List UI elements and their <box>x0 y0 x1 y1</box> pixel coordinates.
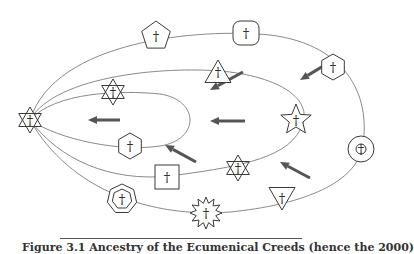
figure-caption: Figure 3.1 Ancestry of the Ecumenical Cr… <box>22 241 382 254</box>
cross-glyph: † <box>279 191 286 206</box>
cross-glyph: † <box>235 161 242 176</box>
cross-glyph: † <box>27 113 34 128</box>
circle-cross-icon: † <box>348 136 374 162</box>
outer-orbit <box>30 33 364 212</box>
twelve-point-star-cross-icon: † <box>190 197 222 229</box>
arrow-lower-right-icon <box>280 162 310 178</box>
star-of-david-lower-icon: † <box>227 155 250 181</box>
pentagon-cross-icon: † <box>142 21 171 48</box>
cross-glyph: † <box>110 85 117 100</box>
cross-glyph: † <box>164 170 171 185</box>
triangle-down-cross-icon: † <box>269 188 295 211</box>
five-point-star-cross-icon: † <box>281 104 311 133</box>
star-of-david-upper-icon: † <box>102 79 125 105</box>
square-cross-icon: † <box>155 165 179 189</box>
second-orbit <box>30 70 304 177</box>
cross-glyph: † <box>243 26 250 41</box>
arrow-left-mid-icon <box>210 117 245 125</box>
hexagon-cross-right-icon: † <box>322 54 345 80</box>
arrow-left-inner-icon <box>88 116 120 124</box>
cross-glyph: † <box>215 65 222 80</box>
cross-glyph: † <box>153 29 160 44</box>
heptagon-cross-icon: † <box>107 184 136 213</box>
arrow-lower-mid-icon <box>165 145 196 162</box>
hexagon-cross-left-icon: † <box>119 133 142 159</box>
cross-glyph: † <box>127 139 134 154</box>
cross-glyph: † <box>293 113 300 128</box>
cross-glyph: † <box>119 192 126 207</box>
rounded-square-cross-icon: † <box>233 21 259 45</box>
cross-glyph: † <box>358 142 365 157</box>
cross-glyph: † <box>203 206 210 221</box>
cross-glyph: † <box>330 60 337 75</box>
caption-rule <box>60 238 302 239</box>
